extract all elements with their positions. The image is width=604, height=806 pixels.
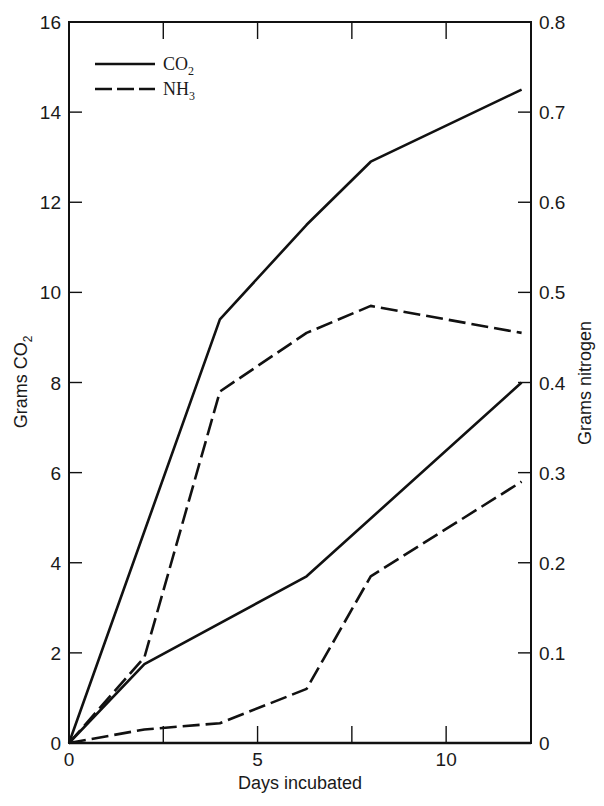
plot-frame — [69, 22, 531, 743]
x-axis-title: Days incubated — [238, 773, 362, 793]
y-tick-label-right: 0.5 — [539, 282, 565, 303]
y-axis-title-left: Grams CO2 — [11, 335, 35, 428]
legend-co2-label: CO2 — [163, 54, 194, 78]
y-tick-label-left: 6 — [50, 463, 61, 484]
y-tick-label-right: 0.7 — [539, 102, 565, 123]
axis-ticks: 024681012141600.10.20.30.40.50.60.70.805… — [40, 12, 566, 770]
y-axis-title-right: Grams nitrogen — [575, 321, 595, 445]
x-tick-label: 5 — [252, 749, 263, 770]
data-series — [69, 90, 522, 743]
y-tick-label-left: 16 — [40, 12, 61, 33]
y-tick-label-right: 0.4 — [539, 373, 566, 394]
legend-nh3-label: NH3 — [163, 79, 195, 103]
series-line-nh3-lower — [69, 482, 522, 743]
y-tick-label-right: 0.8 — [539, 12, 565, 33]
y-tick-label-right: 0.6 — [539, 192, 565, 213]
x-tick-label: 0 — [64, 749, 75, 770]
y-tick-label-left: 4 — [50, 553, 61, 574]
chart: 024681012141600.10.20.30.40.50.60.70.805… — [0, 0, 604, 806]
series-line-co2-lower — [69, 383, 522, 744]
y-tick-label-left: 2 — [50, 643, 61, 664]
y-tick-label-right: 0.2 — [539, 553, 565, 574]
y-tick-label-right: 0 — [539, 733, 550, 754]
x-tick-label: 10 — [436, 749, 457, 770]
y-tick-label-left: 10 — [40, 282, 61, 303]
plot-border — [69, 22, 531, 743]
y-tick-label-right: 0.1 — [539, 643, 565, 664]
y-tick-label-right: 0.3 — [539, 463, 565, 484]
legend: CO2 NH3 — [95, 54, 195, 103]
y-tick-label-left: 0 — [50, 733, 61, 754]
y-tick-label-left: 12 — [40, 192, 61, 213]
series-line-co2-upper — [69, 90, 522, 743]
y-tick-label-left: 14 — [40, 102, 62, 123]
y-tick-label-left: 8 — [50, 373, 61, 394]
